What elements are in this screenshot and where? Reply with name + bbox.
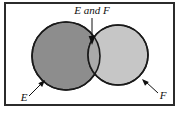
set-e-label: E — [20, 91, 28, 103]
venn-diagram-figure: E and F E F — [0, 0, 184, 115]
set-f-label: F — [159, 89, 167, 101]
venn-diagram-canvas: E and F E F — [0, 0, 184, 115]
intersection-label: E and F — [73, 4, 110, 16]
